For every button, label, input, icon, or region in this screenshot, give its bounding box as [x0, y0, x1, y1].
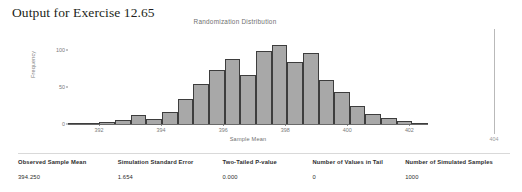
right-marker-line: [494, 29, 495, 134]
results-table: Observed Sample Mean Simulation Standard…: [18, 153, 510, 183]
x-tick-label: 396: [219, 127, 228, 133]
column-header-number-of-values-in-tail: Number of Values in Tail: [313, 154, 406, 169]
x-axis-line: [68, 124, 428, 125]
histogram-bar: [334, 92, 350, 124]
column-header-observed-sample-mean: Observed Sample Mean: [18, 154, 118, 169]
column-header-two-tailed-p-value: Two-Tailed P-value: [222, 154, 312, 169]
table-row: 394.250 1.654 0.000 0 1000: [18, 169, 510, 183]
table-header-row: Observed Sample Mean Simulation Standard…: [18, 154, 510, 169]
histogram-bar: [225, 59, 241, 124]
histogram-bar: [193, 84, 209, 124]
x-tick-label: 392: [95, 127, 104, 133]
value-observed-sample-mean: 394.250: [18, 169, 118, 183]
histogram-bar: [350, 106, 366, 124]
value-number-of-values-in-tail: 0: [313, 169, 406, 183]
right-marker-label: 404: [490, 136, 499, 142]
chart-title: Randomization Distribution: [0, 18, 470, 25]
x-tick-label: 398: [281, 127, 290, 133]
column-header-simulation-standard-error: Simulation Standard Error: [118, 154, 223, 169]
histogram-bar: [319, 80, 335, 124]
x-axis-label: Sample Mean: [68, 136, 428, 142]
value-two-tailed-p-value: 0.000: [222, 169, 312, 183]
histogram-bar: [209, 70, 225, 124]
x-tick-label: 400: [343, 127, 352, 133]
histogram-bar: [365, 114, 381, 124]
y-tick-mark: [66, 50, 68, 51]
histogram-bar: [162, 112, 178, 124]
y-tick-label: 50: [59, 84, 65, 90]
page-root: Output for Exercise 12.65 Randomization …: [0, 0, 522, 192]
x-tick-label: 402: [405, 127, 414, 133]
histogram-bar: [240, 75, 256, 124]
y-tick-label: 0: [62, 121, 65, 127]
value-number-of-simulated-samples: 1000: [405, 169, 510, 183]
plot-area: 050100 392394396398400402: [68, 32, 428, 124]
x-tick-label: 394: [157, 127, 166, 133]
histogram-bar: [303, 53, 319, 124]
histogram-bar: [287, 62, 303, 124]
histogram-bar: [256, 51, 272, 124]
histogram-bar: [272, 45, 288, 124]
y-tick-label: 100: [56, 47, 65, 53]
histogram-bar: [178, 99, 194, 124]
column-header-number-of-simulated-samples: Number of Simulated Samples: [405, 154, 510, 169]
y-axis-label: Frequency: [30, 51, 36, 78]
value-simulation-standard-error: 1.654: [118, 169, 223, 183]
histogram-bars: [68, 32, 428, 124]
randomization-distribution-figure: Randomization Distribution Frequency 050…: [0, 18, 470, 150]
histogram-bar: [131, 115, 147, 124]
y-tick-mark: [66, 87, 68, 88]
